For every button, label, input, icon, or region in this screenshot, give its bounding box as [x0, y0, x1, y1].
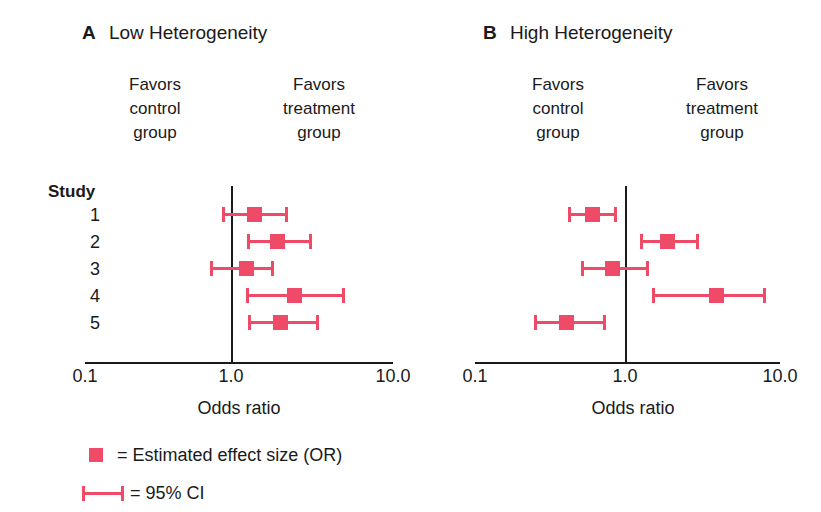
ci-cap-low: [248, 315, 251, 330]
panel-b: B High Heterogeneity Favors control grou…: [411, 0, 821, 400]
study-column-header: Study: [48, 182, 95, 202]
effect-marker: [247, 207, 262, 222]
legend-item-confidence-interval: = 95% CI: [80, 480, 205, 506]
effect-marker: [239, 261, 254, 276]
legend-item-label: = Estimated effect size (OR): [117, 445, 342, 466]
effect-marker: [709, 288, 724, 303]
x-tick-center: [231, 353, 233, 363]
ci-cap-high: [342, 288, 345, 303]
effect-marker: [559, 315, 574, 330]
ci-cap-low: [247, 234, 250, 249]
ci-cap-low: [581, 261, 584, 276]
x-tick-label-1: 1.0: [595, 366, 655, 387]
x-tick-label-2: 10.0: [750, 366, 810, 387]
ci-cap-high: [614, 207, 617, 222]
ci-whisker-icon: [80, 486, 126, 501]
ci-cap-right: [121, 486, 124, 501]
x-tick-label-1: 1.0: [201, 366, 261, 387]
effect-marker: [287, 288, 302, 303]
row-label-3: 3: [70, 259, 100, 280]
x-tick-label-0: 0.1: [55, 366, 115, 387]
ci-bar: [83, 492, 123, 495]
ci-cap-high: [271, 261, 274, 276]
ci-cap-low: [210, 261, 213, 276]
figure-legend: = Estimated effect size (OR) = 95% CI: [0, 404, 821, 512]
legend-item-effect-size: = Estimated effect size (OR): [84, 442, 342, 468]
effect-marker: [273, 315, 288, 330]
x-axis-line: [85, 362, 393, 364]
legend-item-label: = 95% CI: [130, 483, 205, 504]
ci-cap-high: [603, 315, 606, 330]
row-label-2: 2: [70, 232, 100, 253]
square-marker-icon: [89, 448, 103, 462]
effect-marker: [585, 207, 600, 222]
ci-cap-high: [285, 207, 288, 222]
ci-cap-high: [696, 234, 699, 249]
ci-cap-high: [763, 288, 766, 303]
panel-a-plot-area: Study 1 2 3 4 5: [0, 0, 410, 400]
ci-cap-high: [646, 261, 649, 276]
ci-cap-low: [568, 207, 571, 222]
panel-a: A Low Heterogeneity Favors control group…: [0, 0, 410, 400]
ci-cap-low: [652, 288, 655, 303]
ci-cap-high: [316, 315, 319, 330]
row-label-5: 5: [70, 313, 100, 334]
ci-cap-low: [222, 207, 225, 222]
effect-marker: [660, 234, 675, 249]
ci-cap-low: [640, 234, 643, 249]
forest-plot-figure: A Low Heterogeneity Favors control group…: [0, 0, 821, 512]
null-effect-line: [625, 186, 627, 362]
x-tick-label-0: 0.1: [445, 366, 505, 387]
effect-marker: [605, 261, 620, 276]
row-label-4: 4: [70, 286, 100, 307]
x-axis-line: [475, 362, 780, 364]
ci-cap-low: [534, 315, 537, 330]
row-label-1: 1: [70, 205, 100, 226]
ci-cap-low: [246, 288, 249, 303]
ci-cap-high: [309, 234, 312, 249]
x-tick-center: [625, 353, 627, 363]
panel-b-plot-area: 0.1 1.0 10.0 Odds ratio: [411, 0, 821, 400]
effect-marker: [270, 234, 285, 249]
